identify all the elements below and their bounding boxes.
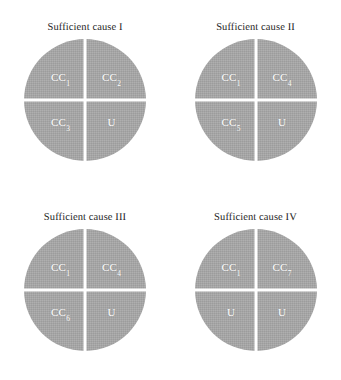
pie-slice-bottom-right: U xyxy=(85,100,146,161)
pie-slice-label: CC1 xyxy=(222,72,241,83)
pie-quadrants: CC1 CC2 CC3 U xyxy=(24,39,146,161)
panel-sufficient-cause-1: Sufficient cause I CC1 CC2 CC3 U xyxy=(0,0,170,190)
panel-title: Sufficient cause II xyxy=(216,21,295,34)
pie-quadrants: CC1 CC7 U U xyxy=(195,229,317,351)
pie-slice-top-right: CC7 xyxy=(256,229,317,290)
pie-slice-label: CC3 xyxy=(51,117,70,128)
pie-quadrants: CC1 CC4 CC6 U xyxy=(24,229,146,351)
pie-slice-top-left: CC1 xyxy=(195,229,256,290)
pie-slice-bottom-left: CC6 xyxy=(24,290,85,351)
pie-slice-top-left: CC1 xyxy=(24,39,85,100)
pie-slice-label: CC5 xyxy=(222,117,241,128)
pie-slice-label: CC1 xyxy=(222,262,241,273)
pie-slice-top-left: CC1 xyxy=(24,229,85,290)
pie-slice-label: CC4 xyxy=(102,262,121,273)
panel-sufficient-cause-4: Sufficient cause IV CC1 CC7 U U xyxy=(170,190,341,380)
pie-slice-top-right: CC2 xyxy=(85,39,146,100)
pie-slice-top-right: CC4 xyxy=(256,39,317,100)
pie-slice-label: U xyxy=(278,117,286,128)
pie-slice-bottom-left: U xyxy=(195,290,256,351)
pie-slice-label: CC2 xyxy=(102,72,121,83)
pie-slice-top-left: CC1 xyxy=(195,39,256,100)
panel-sufficient-cause-2: Sufficient cause II CC1 CC4 CC5 U xyxy=(170,0,341,190)
pie-slice-label: U xyxy=(278,307,286,318)
pie-slice-label: U xyxy=(107,117,115,128)
pie-slice-top-right: CC4 xyxy=(85,229,146,290)
pie-slice-label: CC1 xyxy=(51,72,70,83)
panel-title: Sufficient cause IV xyxy=(214,211,297,224)
panel-title: Sufficient cause III xyxy=(44,211,126,224)
panel-title: Sufficient cause I xyxy=(47,21,122,34)
pie-slice-bottom-left: CC5 xyxy=(195,100,256,161)
panel-sufficient-cause-3: Sufficient cause III CC1 CC4 CC6 U xyxy=(0,190,170,380)
sufficient-cause-figure: Sufficient cause I CC1 CC2 CC3 U xyxy=(0,0,341,380)
pie-slice-label: CC6 xyxy=(51,307,70,318)
pie-quadrants: CC1 CC4 CC5 U xyxy=(195,39,317,161)
pie-slice-label: CC1 xyxy=(51,262,70,273)
pie-slice-bottom-right: U xyxy=(256,290,317,351)
pie-slice-label: U xyxy=(227,307,235,318)
pie-slice-bottom-right: U xyxy=(85,290,146,351)
pie-slice-label: CC7 xyxy=(273,262,292,273)
pie-slice-bottom-right: U xyxy=(256,100,317,161)
pie-chart: CC1 CC2 CC3 U xyxy=(24,39,146,161)
pie-slice-label: CC4 xyxy=(273,72,292,83)
pie-chart: CC1 CC7 U U xyxy=(195,229,317,351)
pie-chart: CC1 CC4 CC6 U xyxy=(24,229,146,351)
pie-slice-label: U xyxy=(107,307,115,318)
pie-chart: CC1 CC4 CC5 U xyxy=(195,39,317,161)
pie-slice-bottom-left: CC3 xyxy=(24,100,85,161)
